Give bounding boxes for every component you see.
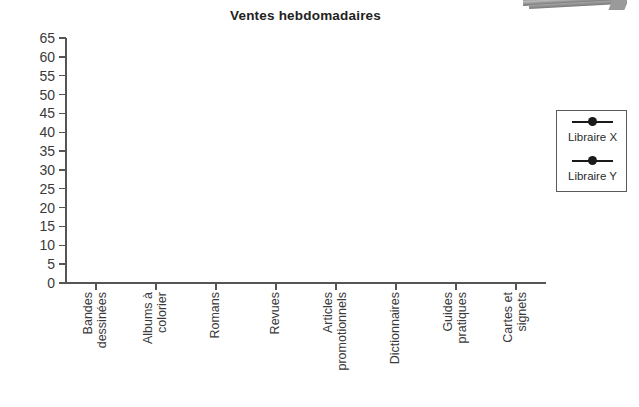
y-tick-25 xyxy=(59,188,66,189)
chart-figure: Ventes hebdomadaires 6560555045403530252… xyxy=(0,0,639,407)
y-tick-0 xyxy=(59,282,66,283)
y-tick-label-60: 60 xyxy=(3,50,55,64)
y-tick-15 xyxy=(59,226,66,227)
legend-label-0: Libraire X xyxy=(557,130,628,144)
chart-title: Ventes hebdomadaires xyxy=(0,8,611,23)
x-tick-7 xyxy=(515,283,516,290)
y-tick-20 xyxy=(59,207,66,208)
y-tick-label-45: 45 xyxy=(3,106,55,120)
y-tick-45 xyxy=(59,113,66,114)
x-axis-line xyxy=(66,282,546,284)
scan-bar-upper xyxy=(523,0,623,6)
y-tick-65 xyxy=(59,37,66,38)
x-tick-6 xyxy=(455,283,456,290)
y-tick-label-0: 0 xyxy=(3,276,55,290)
y-tick-label-40: 40 xyxy=(3,125,55,139)
x-tick-2 xyxy=(215,283,216,290)
y-tick-60 xyxy=(59,56,66,57)
x-tick-3 xyxy=(275,283,276,290)
scan-corner-edge xyxy=(608,0,627,10)
y-tick-5 xyxy=(59,263,66,264)
y-tick-label-35: 35 xyxy=(3,144,55,158)
y-tick-label-50: 50 xyxy=(3,88,55,102)
x-category-label-7: Cartes et signets xyxy=(502,292,522,378)
y-tick-label-30: 30 xyxy=(3,163,55,177)
x-category-label-1: Albums à colorier xyxy=(142,292,162,378)
y-tick-30 xyxy=(59,169,66,170)
legend-line-dot-icon xyxy=(557,155,628,167)
y-tick-label-20: 20 xyxy=(3,201,55,215)
plot-area xyxy=(66,38,545,283)
x-category-label-4: Articles promotionnels xyxy=(322,292,342,378)
x-category-label-5: Dictionnaires xyxy=(389,292,409,378)
y-tick-40 xyxy=(59,132,66,133)
y-tick-50 xyxy=(59,94,66,95)
x-tick-5 xyxy=(395,283,396,290)
y-tick-35 xyxy=(59,150,66,151)
legend-entry-0[interactable]: Libraire X xyxy=(557,116,628,150)
legend-line-dot-icon xyxy=(557,116,628,128)
x-tick-1 xyxy=(155,283,156,290)
x-tick-4 xyxy=(335,283,336,290)
x-category-label-3: Revues xyxy=(269,292,289,378)
y-tick-label-10: 10 xyxy=(3,238,55,252)
x-tick-0 xyxy=(95,283,96,290)
legend-label-1: Libraire Y xyxy=(557,169,628,183)
legend-dot-marker xyxy=(588,156,597,165)
y-tick-55 xyxy=(59,75,66,76)
x-category-label-6: Guides pratiques xyxy=(442,292,462,378)
x-category-label-0: Bandes dessinées xyxy=(82,292,102,378)
legend: Libraire XLibraire Y xyxy=(556,110,627,192)
y-tick-label-5: 5 xyxy=(3,257,55,271)
legend-entry-1[interactable]: Libraire Y xyxy=(557,155,628,189)
y-tick-label-15: 15 xyxy=(3,219,55,233)
y-tick-label-25: 25 xyxy=(3,182,55,196)
y-tick-10 xyxy=(59,245,66,246)
y-tick-label-65: 65 xyxy=(3,31,55,45)
y-tick-label-55: 55 xyxy=(3,69,55,83)
legend-dot-marker xyxy=(588,117,597,126)
x-category-label-2: Romans xyxy=(209,292,229,378)
